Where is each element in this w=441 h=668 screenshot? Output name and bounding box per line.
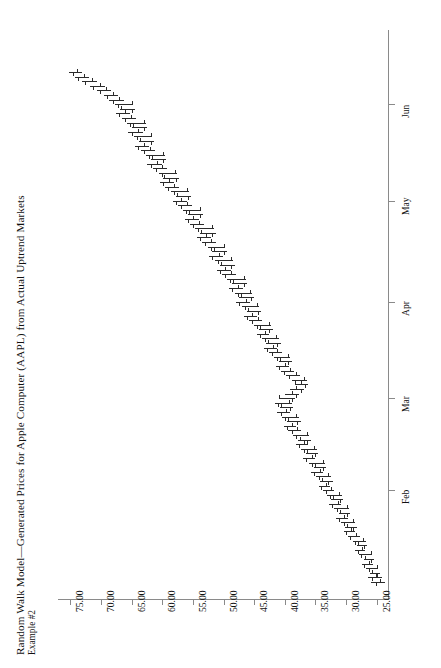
ohlc-close-tick — [100, 91, 101, 94]
ohlc-close-tick — [307, 441, 308, 444]
ohlc-close-tick — [244, 284, 245, 287]
ohlc-open-tick — [92, 78, 93, 81]
ohlc-range — [284, 426, 296, 427]
ohlc-open-tick — [150, 147, 151, 150]
ohlc-open-tick — [288, 354, 289, 357]
ohlc-close-tick — [225, 275, 226, 278]
ohlc-close-tick — [107, 96, 108, 99]
ohlc-open-tick — [233, 280, 234, 283]
ohlc-close-tick — [287, 427, 288, 430]
ohlc-close-tick — [340, 500, 341, 503]
price-tick-label: 35.00 — [319, 590, 330, 612]
ohlc-open-tick — [358, 542, 359, 545]
ohlc-open-tick — [286, 409, 287, 412]
ohlc-close-tick — [315, 454, 316, 457]
ohlc-open-tick — [125, 110, 126, 113]
ohlc-open-tick — [322, 478, 323, 481]
ohlc-open-tick — [338, 501, 339, 504]
ohlc-close-tick — [337, 509, 338, 512]
ohlc-open-tick — [100, 83, 101, 86]
ohlc-close-tick — [289, 376, 290, 379]
ohlc-close-tick — [78, 78, 79, 81]
ohlc-close-tick — [205, 243, 206, 246]
ohlc-close-tick — [269, 330, 270, 333]
ohlc-range — [311, 472, 323, 473]
ohlc-close-tick — [295, 381, 296, 384]
ohlc-close-tick — [328, 482, 329, 485]
ohlc-close-tick — [212, 234, 213, 237]
ohlc-close-tick — [292, 399, 293, 402]
ohlc-close-tick — [212, 257, 213, 260]
ohlc-open-tick — [340, 510, 341, 513]
ohlc-open-tick — [277, 349, 278, 352]
ohlc-close-tick — [361, 555, 362, 558]
ohlc-open-tick — [187, 202, 188, 205]
ohlc-open-tick — [279, 395, 280, 398]
ohlc-close-tick — [251, 298, 252, 301]
ohlc-close-tick — [156, 169, 157, 172]
ohlc-range — [257, 334, 270, 335]
ohlc-open-tick — [276, 335, 277, 338]
ohlc-open-tick — [289, 400, 290, 403]
ohlc-open-tick — [106, 87, 107, 90]
ohlc-close-tick — [238, 294, 239, 297]
ohlc-open-tick — [344, 515, 345, 518]
ohlc-open-tick — [144, 143, 145, 146]
ohlc-open-tick — [363, 538, 364, 541]
ohlc-open-tick — [372, 570, 373, 573]
time-tick-label: Feb — [400, 490, 411, 504]
ohlc-open-tick — [138, 129, 139, 132]
ohlc-open-tick — [347, 524, 348, 527]
price-tick-label: 45.00 — [258, 590, 269, 612]
ohlc-open-tick — [244, 276, 245, 279]
ohlc-close-tick — [258, 312, 259, 315]
ohlc-range — [296, 444, 308, 445]
ohlc-close-tick — [277, 344, 278, 347]
ohlc-close-tick — [314, 473, 315, 476]
ohlc-range — [69, 72, 82, 73]
plot-area: 75.0070.0065.0060.0055.0050.0045.0040.00… — [58, 30, 389, 600]
ohlc-close-tick — [257, 326, 258, 329]
ohlc-close-tick — [290, 408, 291, 411]
ohlc-open-tick — [362, 547, 363, 550]
ohlc-range — [329, 504, 341, 505]
ohlc-close-tick — [239, 303, 240, 306]
ohlc-close-tick — [326, 491, 327, 494]
ohlc-close-tick — [224, 252, 225, 255]
ohlc-close-tick — [330, 496, 331, 499]
price-tick-label: 25.00 — [381, 590, 392, 612]
ohlc-close-tick — [277, 358, 278, 361]
ohlc-open-tick — [84, 74, 85, 77]
ohlc-range — [280, 407, 293, 408]
ohlc-open-tick — [296, 386, 297, 389]
ohlc-open-tick — [285, 363, 286, 366]
ohlc-close-tick — [138, 147, 139, 150]
ohlc-open-tick — [206, 234, 207, 237]
ohlc-open-tick — [199, 221, 200, 224]
time-tick — [388, 398, 395, 399]
ohlc-close-tick — [144, 151, 145, 154]
time-axis-line — [388, 30, 389, 600]
ohlc-close-tick — [149, 156, 150, 159]
price-tick — [315, 599, 316, 605]
ohlc-close-tick — [85, 82, 86, 85]
ohlc-open-tick — [241, 294, 242, 297]
ohlc-close-tick — [288, 362, 289, 365]
ohlc-close-tick — [372, 578, 373, 581]
ohlc-close-tick — [358, 551, 359, 554]
chart-page: Random Walk Model—Generated Prices for A… — [0, 0, 441, 668]
ohlc-close-tick — [369, 569, 370, 572]
ohlc-open-tick — [307, 450, 308, 453]
ohlc-close-tick — [278, 404, 279, 407]
ohlc-range — [276, 366, 289, 367]
ohlc-range — [303, 458, 315, 459]
ohlc-close-tick — [93, 87, 94, 90]
ohlc-close-tick — [305, 385, 306, 388]
ohlc-open-tick — [221, 262, 222, 265]
ohlc-close-tick — [284, 372, 285, 375]
price-tick — [193, 599, 194, 605]
ohlc-open-tick — [157, 161, 158, 164]
ohlc-close-tick — [162, 174, 163, 177]
ohlc-open-tick — [326, 483, 327, 486]
ohlc-close-tick — [137, 137, 138, 140]
